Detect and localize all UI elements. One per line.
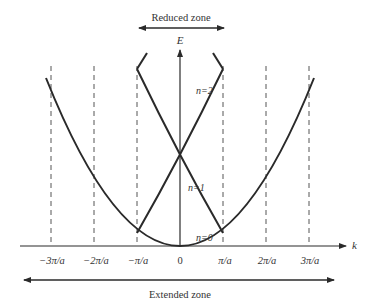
band-n2-right-corner (213, 53, 223, 69)
e-axis-label: E (176, 34, 184, 46)
tick-neg-2pi: −2π/a (83, 255, 109, 266)
extended-zone-label: Extended zone (149, 289, 211, 300)
tick-2pi: 2π/a (258, 255, 277, 266)
reduced-zone-label: Reduced zone (151, 12, 211, 23)
extended-zone-indicator: Extended zone (24, 280, 334, 300)
tick-neg-pi: −π/a (128, 255, 149, 266)
band-label-n0: n=0 (196, 232, 213, 243)
tick-zero: 0 (177, 255, 182, 266)
band-label-n2: n=2 (196, 85, 213, 96)
band-n2-left-corner (137, 53, 147, 69)
tick-3pi: 3π/a (300, 255, 320, 266)
reduced-zone-indicator: Reduced zone (139, 12, 224, 28)
band-label-n1: n=1 (188, 182, 205, 193)
band-diagram: Reduced zone E k n=2 n=1 n=0 −3π/a −2π/a… (0, 0, 368, 304)
k-axis-label: k (352, 239, 358, 251)
tick-neg-3pi: −3π/a (39, 255, 65, 266)
k-tick-labels: −3π/a −2π/a −π/a 0 π/a 2π/a 3π/a (39, 255, 319, 266)
tick-pi: π/a (218, 255, 231, 266)
